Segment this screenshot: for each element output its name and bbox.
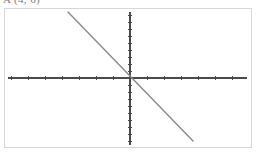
coordinate-plane bbox=[0, 0, 260, 153]
x-axis bbox=[8, 76, 247, 80]
graph-screenshot: A (4, 6) bbox=[0, 0, 260, 153]
